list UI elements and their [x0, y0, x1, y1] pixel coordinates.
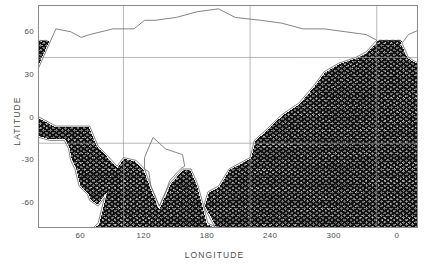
y-tick-label: 30: [25, 69, 35, 78]
plot-frame: [38, 5, 418, 228]
y-tick-label: 60: [25, 26, 35, 35]
x-tick-label: 180: [200, 231, 214, 240]
x-tick-label: 240: [263, 231, 277, 240]
ground-track-map-canvas: [39, 6, 418, 228]
y-tick-label: 0: [29, 112, 34, 121]
x-axis-title: LONGITUDE: [0, 250, 429, 260]
x-tick-label: 120: [136, 231, 150, 240]
x-tick-label: 60: [75, 231, 85, 240]
y-axis-title: LATITUDE: [12, 66, 22, 176]
figure-container: 60300-30-60 601201802403000 LATITUDE LON…: [0, 0, 429, 270]
y-tick-label: -30: [22, 155, 34, 164]
x-axis-tick-labels: 601201802403000: [0, 231, 429, 247]
y-tick-label: -60: [22, 198, 34, 207]
x-tick-label: 0: [395, 231, 400, 240]
x-tick-label: 300: [326, 231, 340, 240]
